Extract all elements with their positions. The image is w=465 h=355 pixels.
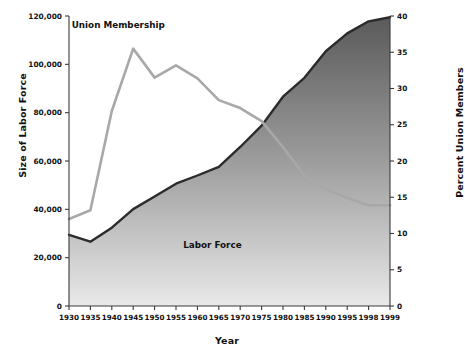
x-tick-label: 1970	[230, 313, 250, 322]
x-tick-label: 1999	[380, 313, 400, 322]
x-tick-label: 1935	[80, 313, 100, 322]
x-tick-label: 1995	[337, 313, 357, 322]
y-tick-label-left: 20,000	[33, 253, 62, 262]
y-tick-label-right: 40	[397, 12, 407, 21]
x-tick-label: 1990	[316, 313, 336, 322]
x-tick-label: 1985	[294, 313, 314, 322]
x-tick-label: 1950	[145, 313, 165, 322]
x-tick-label: 1955	[166, 313, 186, 322]
y-tick-label-right: 5	[397, 265, 402, 274]
y-tick-label-right: 0	[397, 302, 402, 311]
x-axis-title: Year	[0, 335, 454, 346]
x-axis-ticks: 1930193519401945195019551960196519701975…	[59, 306, 400, 322]
y-tick-label-left: 60,000	[33, 157, 62, 166]
series-annotation: Labor Force	[183, 240, 242, 250]
y-tick-label-left: 100,000	[28, 60, 62, 69]
y-axis-left-ticks: 020,00040,00060,00080,000100,000120,000	[28, 12, 69, 311]
x-tick-label: 1998	[359, 313, 379, 322]
x-tick-label: 1980	[273, 313, 293, 322]
x-tick-label: 1960	[187, 313, 207, 322]
y-axis-right-ticks: 0510152025303540	[390, 12, 407, 311]
y-tick-label-left: 40,000	[33, 205, 62, 214]
y-tick-label-right: 20	[397, 157, 407, 166]
y-tick-label-right: 15	[397, 193, 407, 202]
x-tick-label: 1940	[102, 313, 122, 322]
x-tick-label: 1930	[59, 313, 79, 322]
x-tick-label: 1965	[209, 313, 229, 322]
y-tick-label-left: 120,000	[28, 12, 62, 21]
x-tick-label: 1945	[123, 313, 143, 322]
y-tick-label-right: 25	[397, 120, 407, 129]
y-tick-label-left: 80,000	[33, 108, 62, 117]
y-tick-label-left: 0	[57, 302, 62, 311]
y-tick-label-right: 30	[397, 84, 407, 93]
series-annotation: Union Membership	[72, 20, 165, 30]
y-axis-left-title: Size of Labor Force	[17, 66, 28, 186]
y-tick-label-right: 10	[397, 229, 407, 238]
y-axis-right-title: Percent Union Members	[454, 63, 465, 203]
x-tick-label: 1975	[252, 313, 272, 322]
y-tick-label-right: 35	[397, 48, 407, 57]
